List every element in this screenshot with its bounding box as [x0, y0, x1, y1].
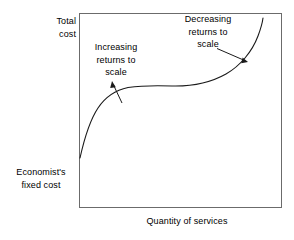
economists-fixed-cost-label: Economist's fixed cost [4, 166, 78, 191]
decreasing-returns-label: Decreasing returns to scale [174, 13, 242, 51]
decreasing-returns-arrow [217, 49, 248, 64]
y-axis-label: Total cost [10, 15, 76, 40]
increasing-returns-label: Increasing returns to scale [83, 41, 149, 79]
x-axis-label: Quantity of services [122, 215, 252, 228]
cost-curve-figure: Total cost Economist's fixed cost Increa… [0, 0, 294, 240]
